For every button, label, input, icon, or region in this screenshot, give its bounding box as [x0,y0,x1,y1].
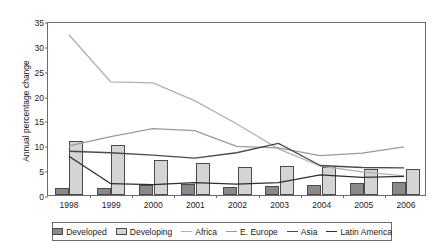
legend-swatch-line-icon [226,231,237,232]
x-axis-tick-label: 2006 [396,200,415,210]
x-axis-tick-mark [385,195,386,198]
legend-item-label: Asia [301,227,318,237]
legend-item-latin-america[interactable]: Latin America [326,227,392,237]
legend-item-label: Latin America [340,227,392,237]
line-e-europe [69,129,404,156]
legend-item-label: E. Europe [240,227,278,237]
x-axis-tick-label: 2003 [270,200,289,210]
y-axis-title: Annual percentage change [21,23,31,199]
legend-item-developing[interactable]: Developing [116,227,173,237]
x-axis-tick-label: 2001 [186,200,205,210]
legend-item-label: Africa [195,227,217,237]
legend-item-asia[interactable]: Asia [287,227,318,237]
legend-swatch-line-icon [326,231,337,232]
y-axis-tick-mark [45,197,48,198]
x-axis-tick-mark [132,195,133,198]
line-asia [69,143,404,168]
legend-swatch-developing-icon [116,228,127,235]
x-axis-tick-label: 1999 [102,200,121,210]
x-axis-tick-label: 2000 [144,200,163,210]
x-axis-tick-mark [343,195,344,198]
x-axis-tick-mark [216,195,217,198]
chart-container: Annual percentage change 05101520253035 … [0,0,444,252]
legend-item-africa[interactable]: Africa [181,227,217,237]
x-axis-tick-mark [174,195,175,198]
x-axis-tick-label: 2005 [354,200,373,210]
x-axis-tick-mark [259,195,260,198]
legend-item-e-europe[interactable]: E. Europe [226,227,278,237]
lines-layer [48,23,425,195]
x-axis-tick-label: 2004 [312,200,331,210]
line-africa [69,35,404,176]
x-axis-tick-mark [301,195,302,198]
legend-swatch-developed-icon [52,228,63,235]
x-axis-tick-mark [90,195,91,198]
legend-item-label: Developing [130,227,173,237]
legend-item-label: Developed [66,227,107,237]
legend-swatch-line-icon [287,231,298,232]
plot-area: 05101520253035 1998199920002001200220032… [47,22,426,196]
chart-legend: DevelopedDevelopingAfricaE. EuropeAsiaLa… [52,222,392,241]
x-axis-tick-label: 2002 [228,200,247,210]
legend-item-developed[interactable]: Developed [52,227,107,237]
x-axis-tick-label: 1998 [60,200,79,210]
legend-swatch-line-icon [181,231,192,232]
